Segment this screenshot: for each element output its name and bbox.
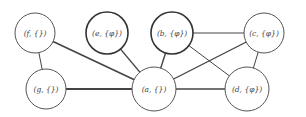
node-d: (d, {φ}) (225, 67, 269, 111)
node-a: (a, {}) (132, 67, 176, 111)
node-e: (e, {φ}) (86, 12, 128, 54)
node-label: (c, {φ}) (249, 29, 279, 38)
node-label: (f, {}) (24, 29, 47, 38)
node-label: (d, {φ}) (232, 85, 262, 94)
node-label: (g, {}) (34, 85, 59, 94)
node-label: (a, {}) (142, 85, 167, 94)
graph-diagram: (f, {})(e, {φ})(b, {φ})(c, {φ})(g, {})(a… (0, 0, 306, 117)
node-g: (g, {}) (26, 69, 66, 109)
node-f: (f, {}) (15, 13, 55, 53)
node-b: (b, {φ}) (151, 12, 193, 54)
node-c: (c, {φ}) (244, 13, 284, 53)
nodes-layer: (f, {})(e, {φ})(b, {φ})(c, {φ})(g, {})(a… (15, 12, 284, 111)
node-label: (e, {φ}) (92, 29, 122, 38)
node-label: (b, {φ}) (157, 29, 187, 38)
